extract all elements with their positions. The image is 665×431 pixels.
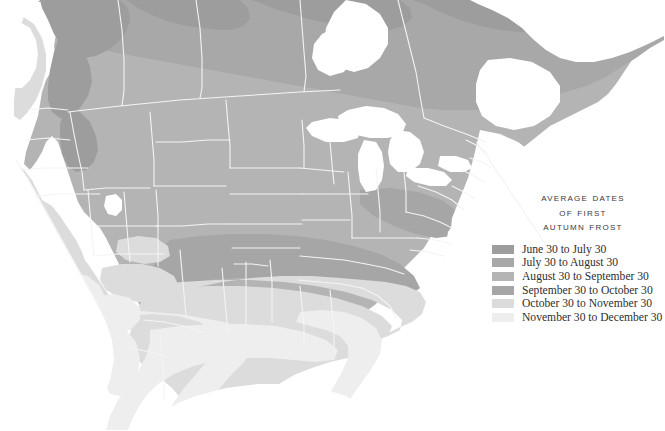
legend-title: Average Dates of First Autumn Frost [488, 188, 664, 234]
legend-item-label: September 30 to October 30 [522, 284, 653, 297]
legend-item: July 30 to August 30 [492, 256, 664, 270]
legend-item-label: November 30 to December 30 [522, 311, 662, 324]
legend-item-label: July 30 to August 30 [522, 256, 618, 269]
legend-item: August 30 to September 30 [492, 270, 664, 284]
legend-item: June 30 to July 30 [492, 243, 664, 257]
legend-title-line-2: of First [502, 205, 664, 220]
map-figure: Average Dates of First Autumn Frost June… [0, 0, 665, 431]
legend-swatch [492, 258, 514, 267]
legend-item-label: August 30 to September 30 [522, 270, 649, 283]
legend-swatch [492, 245, 514, 254]
legend-swatch [492, 299, 514, 308]
legend-item-label: October 30 to November 30 [522, 297, 652, 310]
legend-item-label: June 30 to July 30 [522, 243, 606, 256]
legend-item: September 30 to October 30 [492, 283, 664, 297]
legend-items: June 30 to July 30 July 30 to August 30 … [488, 243, 664, 325]
legend-swatch [492, 313, 514, 322]
legend-item: November 30 to December 30 [492, 310, 664, 324]
legend-title-line-3: Autumn Frost [502, 219, 664, 234]
legend-swatch [492, 286, 514, 295]
legend-item: October 30 to November 30 [492, 297, 664, 311]
map-legend: Average Dates of First Autumn Frost June… [488, 188, 664, 328]
legend-swatch [492, 272, 514, 281]
legend-title-line-1: Average Dates [502, 190, 664, 205]
